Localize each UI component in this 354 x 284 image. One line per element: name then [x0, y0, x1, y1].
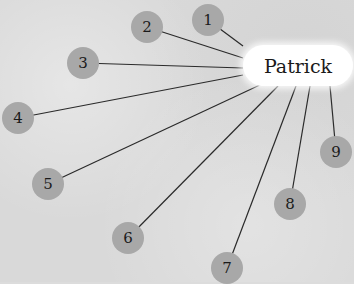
center-node-label: Patrick [264, 55, 332, 77]
node-label: 6 [123, 229, 133, 247]
node-label: 3 [78, 54, 88, 72]
connector-line [18, 75, 243, 118]
node-label: 2 [142, 18, 152, 36]
node-9: 9 [320, 136, 352, 168]
node-8: 8 [274, 188, 306, 220]
node-7: 7 [211, 252, 243, 284]
node-label: 7 [222, 259, 232, 277]
connector-line [290, 86, 310, 204]
connector-line [227, 86, 296, 268]
node-label: 8 [285, 195, 295, 213]
node-label: 5 [43, 175, 53, 193]
node-6: 6 [112, 222, 144, 254]
center-node-patrick: Patrick [243, 45, 353, 86]
connector-line [128, 86, 278, 238]
node-label: 4 [13, 109, 23, 127]
node-1: 1 [192, 4, 224, 36]
node-4: 4 [2, 102, 34, 134]
node-2: 2 [131, 11, 163, 43]
node-label: 9 [331, 143, 341, 161]
node-3: 3 [67, 47, 99, 79]
node-5: 5 [32, 168, 64, 200]
node-label: 1 [203, 11, 213, 29]
connector-line [83, 63, 243, 68]
